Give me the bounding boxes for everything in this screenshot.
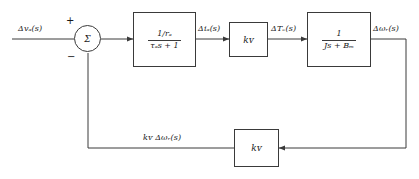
armature-numerator: 1/rₐ [155, 29, 174, 39]
mechanical-numerator: 1 [334, 29, 343, 39]
mechanical-transfer-function-block: 1 Js + Bₘ [307, 12, 371, 67]
mechanical-fraction: 1 Js + Bₘ [322, 29, 356, 51]
armature-fraction: 1/rₐ τₐs + 1 [148, 29, 180, 51]
torque-constant-block: kᴠ [229, 22, 268, 57]
summing-junction: Σ [74, 25, 101, 52]
input-signal-label: Δvₐ(s) [18, 24, 42, 33]
speed-signal-label: Δωᵣ(s) [373, 24, 399, 33]
plus-sign: + [66, 16, 74, 26]
current-signal-label: Δiₐ(s) [198, 24, 220, 33]
mechanical-denominator: Js + Bₘ [322, 40, 356, 51]
armature-transfer-function-block: 1/rₐ τₐs + 1 [133, 12, 196, 67]
feedback-signal-label: kᴠ Δωᵣ(s) [143, 133, 181, 142]
torque-constant-label: kᴠ [243, 35, 254, 45]
feedback-gain-block: kᴠ [234, 129, 279, 167]
minus-sign: − [67, 52, 75, 62]
summing-junction-symbol: Σ [84, 34, 90, 44]
block-diagram: Σ + − 1/rₐ τₐs + 1 kᴠ 1 Js + Bₘ kᴠ Δvₐ(s… [0, 0, 419, 179]
armature-denominator: τₐs + 1 [148, 40, 180, 51]
torque-signal-label: ΔTₑ(s) [271, 24, 296, 33]
feedback-gain-label: kᴠ [251, 143, 262, 153]
